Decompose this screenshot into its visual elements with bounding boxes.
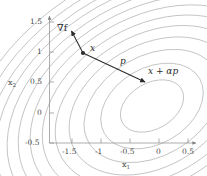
x-tick-label--1.5: -1.5 (62, 147, 76, 156)
contour-level-5 (26, 0, 207, 176)
contour-lines (0, 0, 207, 176)
gradient-label: ∇f (57, 22, 67, 33)
y-axis-title: x2 (8, 78, 16, 87)
x-axis-title: x1 (122, 160, 130, 169)
x-axis-title-sub: 1 (127, 164, 131, 170)
plot-canvas (0, 0, 207, 176)
y-tick-label-1.5: 1.5 (30, 17, 42, 26)
new-point-label: x + αp (148, 66, 178, 76)
y-tick-label--0.5: -0.5 (25, 138, 39, 147)
y-axis-title-text: x (8, 78, 13, 87)
x-tick-label-0: 0 (156, 147, 161, 156)
y-tick-label-1: 1 (37, 47, 42, 56)
contour-level-6 (10, 0, 207, 176)
x-axis-title-text: x (122, 160, 127, 169)
x-tick-label--1: -1 (95, 147, 102, 156)
axis-lines (50, 16, 197, 143)
y-axis-title-sub: 2 (13, 82, 17, 88)
gradient-vector (72, 31, 84, 53)
contour-level-1 (111, 69, 193, 143)
point-x-marker (81, 51, 85, 55)
point-x-label: x (90, 43, 95, 53)
contour-figure: 1.5 1 0.5 0 -0.5 -1.5 -1 -0.5 0 0.5 x1 x… (0, 0, 207, 176)
direction-p-label: p (120, 56, 126, 66)
x-tick-label--0.5: -0.5 (120, 147, 134, 156)
x-tick-label-0.5: 0.5 (182, 147, 194, 156)
y-tick-label-0.5: 0.5 (30, 77, 42, 86)
y-tick-label-0: 0 (37, 108, 42, 117)
search-direction-vector (83, 53, 145, 82)
